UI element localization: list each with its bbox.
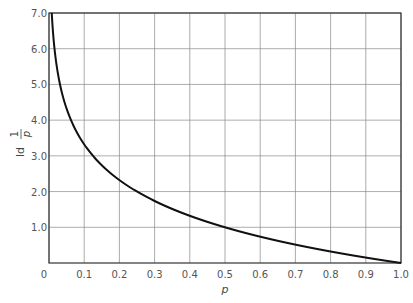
x-tick-label: 0.1	[76, 269, 92, 280]
y-tick-label: 2.0	[31, 187, 47, 198]
x-tick-label: 0.3	[147, 269, 163, 280]
y-tick-label: 1.0	[31, 222, 47, 233]
y-tick-label: 5.0	[31, 79, 47, 90]
svg-text:ld: ld	[14, 147, 27, 157]
svg-text:p: p	[21, 131, 32, 138]
x-tick-label: 0.4	[182, 269, 198, 280]
x-tick-label: 0.2	[111, 269, 127, 280]
curve-line	[52, 13, 401, 263]
x-axis-label: p	[221, 283, 229, 296]
grid-lines	[49, 13, 401, 263]
x-tick-label: 0	[41, 269, 47, 280]
y-axis-ticks: 1.02.03.04.05.06.07.0	[31, 8, 47, 233]
x-axis-ticks: 00.10.20.30.40.50.60.70.80.91.0	[41, 269, 409, 280]
y-axis-label: ld 1 p	[9, 129, 32, 157]
y-tick-label: 7.0	[31, 8, 47, 19]
y-tick-label: 6.0	[31, 44, 47, 55]
x-tick-label: 0.9	[358, 269, 374, 280]
x-tick-label: 1.0	[393, 269, 409, 280]
y-tick-label: 3.0	[31, 151, 47, 162]
x-tick-label: 0.7	[287, 269, 303, 280]
x-tick-label: 0.5	[217, 269, 233, 280]
chart: 00.10.20.30.40.50.60.70.80.91.0 1.02.03.…	[0, 0, 413, 303]
x-tick-label: 0.6	[252, 269, 268, 280]
svg-text:1: 1	[9, 131, 20, 137]
x-tick-label: 0.8	[323, 269, 339, 280]
y-tick-label: 4.0	[31, 115, 47, 126]
